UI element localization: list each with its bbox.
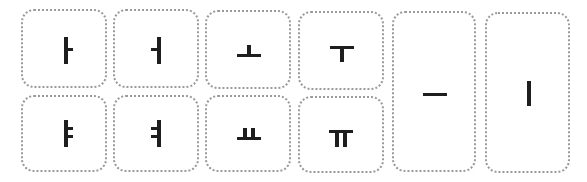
card-vowel-eu[interactable]	[392, 11, 476, 172]
vowel-o-icon	[207, 12, 289, 87]
card-vowel-u[interactable]	[298, 11, 384, 90]
card-vowel-i[interactable]	[485, 12, 570, 173]
vowel-u-icon	[300, 13, 382, 88]
vowel-a-icon	[23, 11, 105, 86]
card-vowel-ya[interactable]	[21, 95, 107, 172]
card-vowel-yeo[interactable]	[113, 95, 199, 172]
card-vowel-o[interactable]	[205, 10, 291, 89]
card-vowel-yo[interactable]	[205, 95, 291, 172]
vowel-yeo-icon	[115, 97, 197, 170]
vowel-eu-icon	[394, 13, 474, 170]
vowel-eo-icon	[115, 11, 197, 86]
card-vowel-a[interactable]	[21, 9, 107, 88]
vowel-yo-icon	[207, 97, 289, 170]
card-vowel-yu[interactable]	[298, 96, 384, 173]
vowel-yu-icon	[300, 98, 382, 171]
card-vowel-eo[interactable]	[113, 9, 199, 88]
vowel-ya-icon	[23, 97, 105, 170]
vowel-i-icon	[487, 14, 568, 171]
